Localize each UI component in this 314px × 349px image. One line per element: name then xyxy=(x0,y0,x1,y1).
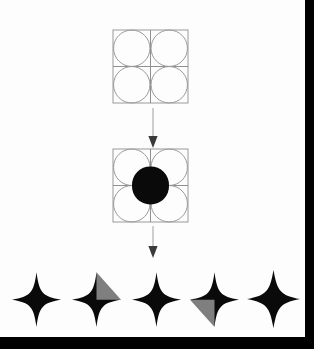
frame-edge-right xyxy=(305,0,314,349)
quadrant-highlight-lower-left xyxy=(190,300,215,327)
circle-top-left xyxy=(114,30,150,66)
quadrant-highlight-upper-right xyxy=(97,272,122,299)
stage-grid-with-center-star xyxy=(112,148,189,223)
diagram-canvas xyxy=(0,0,314,349)
circle-bottom-left xyxy=(114,67,150,103)
center-astroid-star xyxy=(132,166,169,204)
list-item xyxy=(6,258,67,334)
list-item xyxy=(243,258,304,334)
arrow-head xyxy=(148,246,157,258)
frame-edge-bottom xyxy=(0,337,314,349)
circle-bottom-right xyxy=(151,67,187,103)
star-body xyxy=(247,270,300,328)
grid-circles-svg xyxy=(112,29,189,104)
astroid-star-row xyxy=(0,258,305,334)
star-plain-2-svg xyxy=(126,258,187,334)
star-plain-1-svg xyxy=(6,258,67,334)
list-item xyxy=(184,258,245,334)
arrow-head xyxy=(148,136,157,148)
star-plain-3-svg xyxy=(243,258,304,334)
list-item xyxy=(126,258,187,334)
arrow-top-icon xyxy=(140,108,166,150)
star-body xyxy=(12,272,61,327)
star-highlight-lower-left-svg xyxy=(184,258,245,334)
circle-top-right xyxy=(151,30,187,66)
list-item xyxy=(66,258,127,334)
stage-grid-with-circles xyxy=(112,29,189,104)
arrow-bottom-icon xyxy=(140,226,166,260)
grid-center-star-svg xyxy=(112,148,189,223)
star-highlight-upper-right-svg xyxy=(66,258,127,334)
star-body xyxy=(132,272,181,327)
